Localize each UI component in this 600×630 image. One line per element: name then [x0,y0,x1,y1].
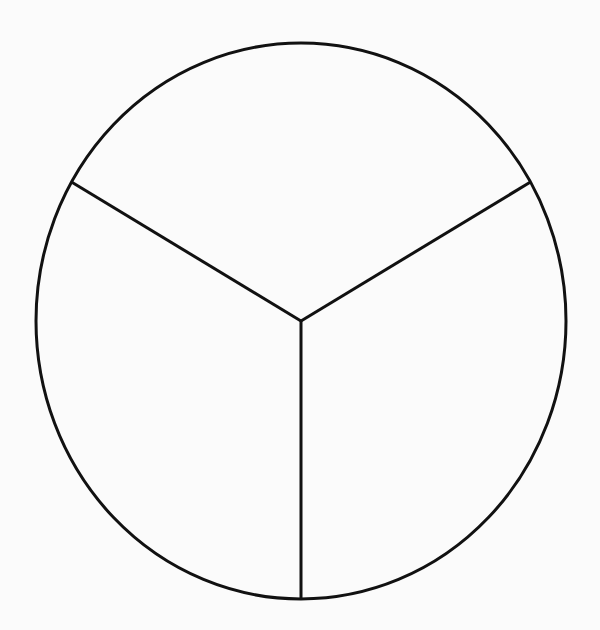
circle-thirds-figure [0,0,600,630]
